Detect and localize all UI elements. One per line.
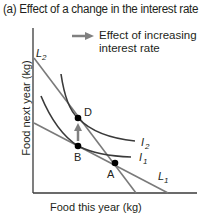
svg-text:1: 1	[143, 157, 147, 166]
right-arrow-icon	[72, 32, 94, 40]
point-label-A: A	[107, 168, 115, 180]
point-label-B: B	[74, 151, 81, 163]
svg-text:I: I	[139, 151, 142, 163]
svg-text:2: 2	[144, 142, 150, 151]
up-arrow-icon	[74, 123, 82, 141]
diagram-canvas: D B A L2 L1 I2 I1	[0, 0, 210, 222]
budget-line-L2	[34, 58, 136, 193]
point-label-D: D	[84, 106, 92, 118]
label-L1: L1	[158, 170, 168, 185]
label-I1: I1	[139, 151, 147, 166]
svg-text:I: I	[141, 136, 144, 148]
point-A	[112, 160, 119, 167]
label-L2: L2	[36, 47, 47, 62]
point-B	[75, 143, 82, 150]
svg-text:1: 1	[164, 176, 168, 185]
point-D	[75, 115, 82, 122]
svg-text:2: 2	[41, 53, 47, 62]
label-I2: I2	[141, 136, 150, 151]
